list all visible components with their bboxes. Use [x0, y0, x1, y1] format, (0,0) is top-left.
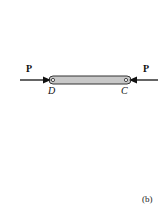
pin-d-icon — [51, 78, 54, 81]
pin-c-icon — [124, 78, 127, 81]
two-force-member-diagram — [0, 0, 166, 208]
point-label-c: C — [121, 86, 128, 96]
figure-caption: (b) — [142, 195, 153, 204]
force-label-right: P — [143, 64, 149, 74]
bar-member — [49, 76, 131, 84]
force-label-left: P — [26, 64, 32, 74]
right-force-arrow-icon — [129, 77, 158, 84]
point-label-d: D — [48, 86, 55, 96]
left-force-arrow-icon — [20, 77, 51, 84]
